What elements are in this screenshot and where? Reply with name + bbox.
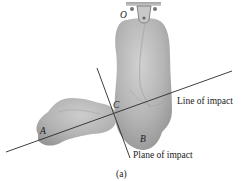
body-a [36,98,116,146]
label-o: O [120,10,127,20]
figure-caption: (a) [116,169,127,180]
impact-diagram: O A B C Line of impact Plane of impact (… [0,0,244,181]
label-a: A [39,126,46,136]
label-line-of-impact: Line of impact [177,96,233,106]
body-b [115,18,172,150]
label-b: B [140,134,146,144]
label-c: C [113,100,120,110]
label-plane-of-impact: Plane of impact [133,150,193,160]
